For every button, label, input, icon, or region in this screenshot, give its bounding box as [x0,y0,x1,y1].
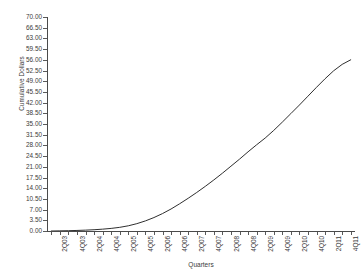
x-axis-tick-labels: 2Q034Q032Q044Q042Q054Q052Q064Q062Q074Q07… [0,0,362,275]
cumulative-dollars-line-chart: Cumulative Dollars 70.0066.5063.0059.505… [0,0,362,275]
x-tick-label: 2Q04 [97,236,103,252]
x-tick-label: 4Q07 [216,236,222,252]
x-tick-label: 4Q06 [182,236,188,252]
x-tick-label: 4Q03 [80,236,86,252]
x-tick-label: 4Q08 [251,236,257,252]
x-tick-label: 2Q03 [62,236,68,252]
x-tick-label: 4Q10 [319,236,325,252]
x-tick-label: 4Q09 [285,236,291,252]
x-tick-label: 2Q06 [165,236,171,252]
x-tick-label: 4Q04 [114,236,120,252]
x-tick-label: 4Q11 [353,236,359,251]
x-tick-label: 2Q11 [336,236,342,251]
x-tick-label: 2Q07 [199,236,205,252]
x-tick-label: 2Q10 [302,236,308,252]
x-tick-label: 4Q05 [148,236,154,252]
x-tick-label: 2Q09 [268,236,274,252]
x-axis-title: Quarters [47,261,355,268]
x-tick-label: 2Q08 [234,236,240,252]
x-tick-label: 2Q05 [131,236,137,252]
